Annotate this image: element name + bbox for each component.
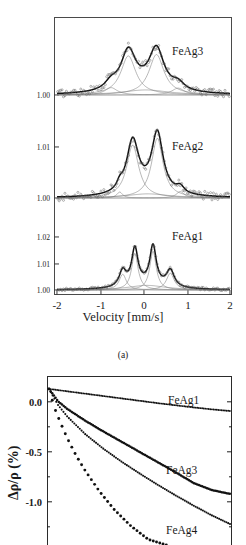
magnetoresistance-panel: Δρ/ρ (%) 0.0 -0.5 -1.0 FeAg1 FeAg3 FeAg4	[0, 0, 246, 545]
figure-container: Relative Emission 1.00 1.01 1.00 1.02 1.…	[0, 0, 246, 545]
mr-ytick-label: 0.0	[29, 397, 42, 408]
mr-curves-svg	[47, 376, 232, 545]
mr-y-axis-label: Δρ/ρ (%)	[6, 446, 22, 500]
mr-plot-area: 0.0 -0.5 -1.0 FeAg1 FeAg3 FeAg4	[47, 376, 232, 545]
mr-ytick-label: -1.0	[25, 497, 42, 508]
mr-ytick-label: -0.5	[25, 447, 42, 458]
